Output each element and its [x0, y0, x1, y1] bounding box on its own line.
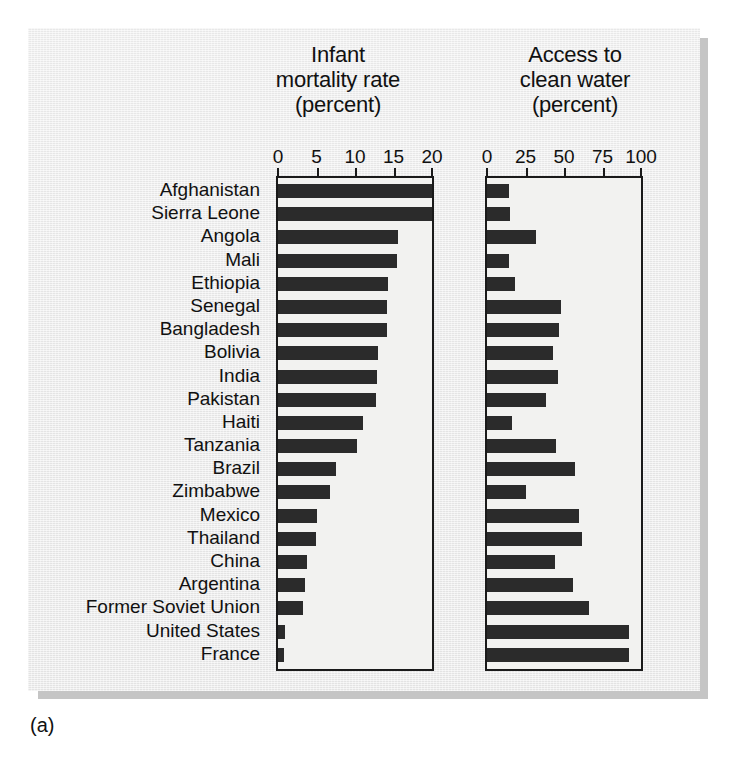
bar-clean-water-15 [487, 532, 582, 546]
category-label-5: Senegal [190, 296, 260, 316]
bar-series-infant-mortality [278, 178, 432, 669]
x-tick-label-clean-water-50: 50 [553, 146, 574, 168]
category-label-17: Argentina [179, 574, 260, 594]
category-label-11: Tanzania [184, 435, 260, 455]
category-label-16: China [210, 551, 260, 571]
category-label-4: Ethiopia [191, 273, 260, 293]
category-label-1: Sierra Leone [151, 203, 260, 223]
x-axis-labels-clean-water: 0255075100 [485, 146, 643, 168]
category-label-9: Pakistan [187, 389, 260, 409]
bar-clean-water-18 [487, 601, 589, 615]
bar-infant-mortality-16 [278, 555, 307, 569]
bar-clean-water-1 [487, 207, 510, 221]
bar-infant-mortality-14 [278, 509, 317, 523]
bar-clean-water-3 [487, 254, 509, 268]
bar-infant-mortality-12 [278, 462, 336, 476]
bar-clean-water-10 [487, 416, 512, 430]
bar-infant-mortality-0 [278, 184, 432, 198]
bar-infant-mortality-6 [278, 323, 387, 337]
bar-infant-mortality-17 [278, 578, 305, 592]
x-tick-label-infant-mortality-5: 5 [311, 146, 322, 168]
x-tick-label-clean-water-75: 75 [592, 146, 613, 168]
category-label-8: India [219, 366, 260, 386]
x-tick-label-clean-water-25: 25 [515, 146, 536, 168]
bar-infant-mortality-5 [278, 300, 387, 314]
bar-clean-water-2 [487, 230, 536, 244]
bar-infant-mortality-10 [278, 416, 363, 430]
plot-area-clean-water [485, 176, 643, 671]
category-label-14: Mexico [200, 505, 260, 525]
category-axis-labels: AfghanistanSierra LeoneAngolaMaliEthiopi… [20, 176, 268, 671]
x-tick-label-infant-mortality-10: 10 [344, 146, 365, 168]
plot-area-infant-mortality [276, 176, 434, 671]
x-tick-label-clean-water-0: 0 [482, 146, 493, 168]
bar-clean-water-13 [487, 485, 526, 499]
category-label-2: Angola [201, 226, 260, 246]
bar-infant-mortality-1 [278, 207, 432, 221]
bar-infant-mortality-15 [278, 532, 316, 546]
bar-clean-water-8 [487, 370, 558, 384]
bar-infant-mortality-19 [278, 625, 285, 639]
bar-series-clean-water [487, 178, 641, 669]
figure-caption: (a) [30, 714, 54, 737]
bar-infant-mortality-18 [278, 601, 303, 615]
bar-clean-water-14 [487, 509, 579, 523]
bar-infant-mortality-20 [278, 648, 284, 662]
category-label-0: Afghanistan [160, 180, 260, 200]
bar-infant-mortality-8 [278, 370, 377, 384]
bar-clean-water-7 [487, 346, 553, 360]
x-tick-label-infant-mortality-15: 15 [383, 146, 404, 168]
bar-clean-water-17 [487, 578, 573, 592]
x-tick-label-infant-mortality-0: 0 [273, 146, 284, 168]
category-label-15: Thailand [187, 528, 260, 548]
bar-infant-mortality-4 [278, 277, 388, 291]
chart-title-clean-water: Access to clean water (percent) [476, 42, 674, 117]
category-label-6: Bangladesh [160, 319, 260, 339]
category-label-10: Haiti [222, 412, 260, 432]
bar-clean-water-0 [487, 184, 509, 198]
bar-infant-mortality-7 [278, 346, 378, 360]
bar-clean-water-6 [487, 323, 559, 337]
category-label-7: Bolivia [204, 342, 260, 362]
bar-clean-water-16 [487, 555, 555, 569]
category-label-20: France [201, 644, 260, 664]
bar-clean-water-5 [487, 300, 561, 314]
category-label-13: Zimbabwe [172, 481, 260, 501]
chart-title-infant-mortality: Infant mortality rate (percent) [238, 42, 438, 117]
category-label-18: Former Soviet Union [86, 597, 260, 617]
category-label-12: Brazil [212, 458, 260, 478]
bar-clean-water-20 [487, 648, 629, 662]
x-axis-labels-infant-mortality: 05101520 [276, 146, 434, 168]
bar-clean-water-12 [487, 462, 575, 476]
bar-clean-water-11 [487, 439, 556, 453]
category-label-3: Mali [225, 250, 260, 270]
bar-infant-mortality-2 [278, 230, 398, 244]
bar-infant-mortality-13 [278, 485, 330, 499]
x-tick-label-clean-water-100: 100 [625, 146, 657, 168]
bar-clean-water-19 [487, 625, 629, 639]
category-label-19: United States [146, 621, 260, 641]
bar-infant-mortality-11 [278, 439, 357, 453]
x-tick-label-infant-mortality-20: 20 [421, 146, 442, 168]
bar-infant-mortality-9 [278, 393, 376, 407]
bar-clean-water-4 [487, 277, 515, 291]
bar-clean-water-9 [487, 393, 546, 407]
bar-infant-mortality-3 [278, 254, 397, 268]
